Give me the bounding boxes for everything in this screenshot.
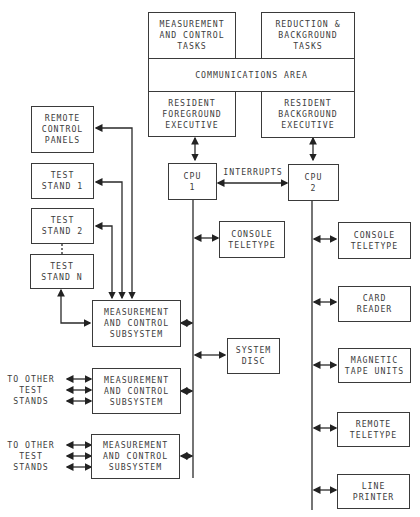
cpu-2-box: CPU 2 bbox=[288, 164, 339, 201]
test-stand-n-box: TEST STAND N bbox=[30, 254, 94, 289]
remote-control-panels-box: REMOTE CONTROL PANELS bbox=[31, 106, 94, 153]
test-stand-2-box: TEST STAND 2 bbox=[31, 208, 94, 244]
reduction-background-tasks-box: REDUCTION & BACKGROUND TASKS bbox=[261, 12, 355, 59]
cpu1-console-teletype-box: CONSOLE TELETYPE bbox=[219, 221, 285, 258]
interrupts-label: INTERRUPTS bbox=[220, 167, 286, 178]
cpu2-console-teletype-box: CONSOLE TELETYPE bbox=[338, 222, 411, 259]
measurement-control-tasks-box: MEASUREMENT AND CONTROL TASKS bbox=[148, 12, 236, 59]
communications-area-box: COMMUNICATIONS AREA bbox=[148, 58, 355, 92]
measurement-control-subsystem-1: MEASUREMENT AND CONTROL SUBSYSTEM bbox=[92, 300, 181, 347]
card-reader-box: CARD READER bbox=[338, 286, 411, 322]
remote-teletype-box: REMOTE TELETYPE bbox=[337, 412, 410, 447]
cpu-1-box: CPU 1 bbox=[168, 163, 217, 200]
resident-background-executive-box: RESIDENT BACKGROUND EXECUTIVE bbox=[261, 91, 355, 138]
system-disc-box: SYSTEM DISC bbox=[227, 338, 280, 374]
line-printer-box: LINE PRINTER bbox=[337, 474, 410, 509]
test-stand-1-box: TEST STAND 1 bbox=[31, 163, 94, 199]
to-other-test-stands-label-1: TO OTHER TEST STANDS bbox=[0, 374, 62, 407]
to-other-test-stands-label-2: TO OTHER TEST STANDS bbox=[0, 440, 62, 473]
measurement-control-subsystem-3: MEASUREMENT AND CONTROL SUBSYSTEM bbox=[91, 434, 180, 479]
measurement-control-subsystem-2: MEASUREMENT AND CONTROL SUBSYSTEM bbox=[92, 368, 181, 414]
magnetic-tape-units-box: MAGNETIC TAPE UNITS bbox=[338, 348, 411, 383]
resident-foreground-executive-box: RESIDENT FOREGROUND EXECUTIVE bbox=[148, 91, 236, 137]
